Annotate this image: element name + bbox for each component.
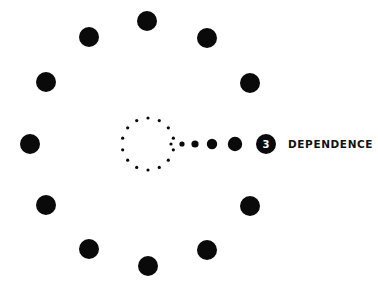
outer-dot: [79, 27, 99, 47]
inner-dot: [158, 166, 161, 169]
outer-dot: [197, 28, 217, 48]
trail-dot: [169, 142, 172, 145]
step-number: 3: [263, 139, 270, 150]
outer-dot: [36, 195, 56, 215]
inner-dot: [135, 166, 138, 169]
inner-dot: [167, 159, 170, 162]
outer-dot: [20, 134, 40, 154]
inner-dot: [126, 126, 129, 129]
inner-dot: [172, 137, 175, 140]
inner-dot: [146, 116, 149, 119]
trail-dot: [179, 141, 184, 146]
trail-dot: [228, 137, 242, 151]
inner-dot: [126, 159, 129, 162]
outer-dot: [137, 11, 157, 31]
trail-dot: [207, 139, 217, 149]
trail-dots: [169, 137, 242, 151]
inner-dot: [172, 148, 175, 151]
inner-dot: [146, 168, 149, 171]
outer-dot: [79, 239, 99, 259]
trail-dot: [191, 140, 198, 147]
outer-dot: [36, 72, 56, 92]
outer-dot: [240, 73, 260, 93]
inner-dot: [121, 137, 124, 140]
outer-ring-dots: [20, 11, 260, 276]
step-badge: 3: [256, 134, 276, 154]
outer-dot: [138, 256, 158, 276]
step-label: DEPENDENCE: [288, 137, 373, 151]
inner-dot: [158, 119, 161, 122]
inner-dot: [121, 148, 124, 151]
outer-dot: [197, 240, 217, 260]
inner-dot: [135, 119, 138, 122]
inner-ring-dots: [121, 116, 175, 171]
outer-dot: [240, 196, 260, 216]
inner-dot: [167, 126, 170, 129]
